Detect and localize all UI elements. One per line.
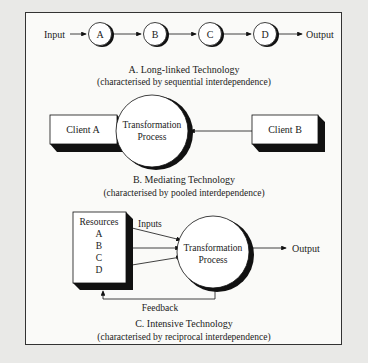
transformation-process-c: Transformation Process: [177, 216, 254, 292]
output-label-c: Output: [292, 243, 320, 254]
svg-text:Resources: Resources: [79, 217, 118, 227]
input-arrow: [132, 228, 181, 240]
node-a: A: [89, 23, 115, 48]
node-c: C: [199, 23, 225, 48]
resources-box: Resources A B C D: [73, 212, 133, 290]
svg-text:C: C: [207, 29, 214, 40]
transformation-process-b: Transformation Process: [116, 95, 193, 170]
diagram-canvas: Input A B C D Output A: [0, 0, 368, 363]
svg-text:Transformation: Transformation: [184, 243, 243, 253]
svg-text:C: C: [96, 253, 102, 263]
svg-text:Process: Process: [198, 255, 227, 265]
node-d: D: [254, 23, 280, 48]
input-arrow: [132, 257, 181, 265]
svg-text:D: D: [261, 29, 268, 40]
client-a-box: Client A: [50, 115, 124, 152]
section-mediating: Client A Transformation Process Client B…: [50, 95, 325, 199]
section-b-subtitle: (characterised by pooled interdependence…: [103, 188, 264, 199]
section-a-subtitle: (characterised by sequential interdepend…: [97, 77, 271, 88]
svg-text:B: B: [96, 241, 102, 251]
section-intensive: Resources A B C D Inputs Transformation …: [73, 212, 320, 343]
svg-text:A: A: [96, 229, 103, 239]
svg-text:Client B: Client B: [268, 124, 302, 135]
svg-text:B: B: [152, 29, 159, 40]
section-c-title: C. Intensive Technology: [135, 318, 233, 329]
svg-text:A: A: [96, 29, 104, 40]
svg-text:D: D: [96, 265, 103, 275]
section-a-title: A. Long-linked Technology: [128, 64, 239, 75]
svg-text:Process: Process: [137, 132, 166, 142]
svg-text:Client A: Client A: [66, 124, 100, 135]
svg-text:Transformation: Transformation: [123, 120, 182, 130]
section-c-subtitle: (characterised by reciprocal interdepend…: [97, 332, 270, 343]
output-label: Output: [306, 29, 334, 40]
input-label: Input: [44, 29, 65, 40]
inputs-label: Inputs: [138, 219, 162, 229]
node-b: B: [144, 23, 170, 48]
client-b-box: Client B: [252, 115, 325, 152]
section-b-title: B. Mediating Technology: [133, 174, 235, 185]
section-long-linked: Input A B C D Output A: [44, 23, 334, 89]
feedback-label: Feedback: [142, 303, 179, 313]
